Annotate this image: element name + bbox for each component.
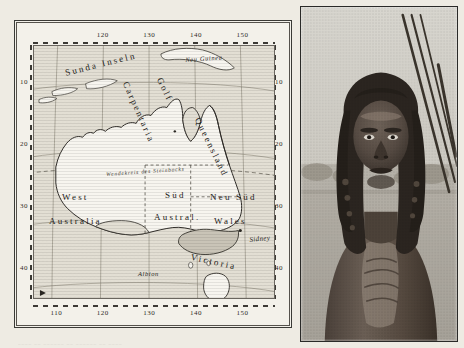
map-label-van-diemensland: Van Diemensland — [146, 298, 201, 299]
map-plot-area: Sunda InselnNeu GuineaGolfCarpentariaQue… — [33, 45, 275, 299]
map-graticule-and-coastlines — [34, 46, 274, 298]
australia-map-panel: 120130140150 110120130140150 10203040 10… — [14, 20, 292, 328]
lon-tick-bottom-150: 150 — [236, 309, 248, 317]
lat-tick-left-30: 30 — [20, 202, 28, 210]
lon-tick-top-130: 130 — [143, 31, 155, 39]
latitude-axis-right: 10203040 — [275, 45, 287, 299]
lat-tick-right-20: 20 — [275, 140, 283, 148]
lat-tick-right-10: 10 — [275, 78, 283, 86]
lon-tick-bottom-120: 120 — [97, 309, 109, 317]
lon-tick-bottom-130: 130 — [143, 309, 155, 317]
ethnographic-portrait-photo — [300, 6, 458, 342]
lon-tick-top-140: 140 — [190, 31, 202, 39]
page-root: 120130140150 110120130140150 10203040 10… — [0, 0, 464, 348]
lat-tick-left-20: 20 — [20, 140, 28, 148]
longitude-axis-bottom: 110120130140150 — [33, 309, 275, 319]
map-ruler-top — [33, 42, 275, 44]
lat-tick-right-40: 40 — [275, 264, 283, 272]
lon-tick-bottom-110: 110 — [50, 309, 62, 317]
lon-tick-top-150: 150 — [236, 31, 248, 39]
lon-tick-bottom-140: 140 — [190, 309, 202, 317]
page-caption: ____ __ ______ __ ______ __ ____ — [18, 340, 248, 347]
latitude-axis-left: 10203040 — [20, 45, 32, 299]
lat-tick-left-40: 40 — [20, 264, 28, 272]
map-ruler-bottom — [33, 305, 275, 307]
lon-tick-top-120: 120 — [97, 31, 109, 39]
portrait-illustration — [301, 7, 457, 341]
lat-tick-left-10: 10 — [20, 78, 28, 86]
lat-tick-right-30: 30 — [275, 202, 283, 210]
longitude-axis-top: 120130140150 — [33, 31, 275, 41]
